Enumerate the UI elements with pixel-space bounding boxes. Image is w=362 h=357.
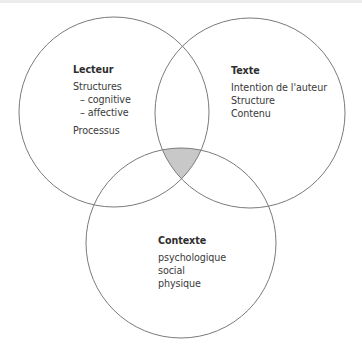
lecteur-title: Lecteur xyxy=(73,63,131,76)
lecteur-label-group: Lecteur Structures – cognitive – affecti… xyxy=(73,63,131,137)
contexte-title: Contexte xyxy=(158,234,226,247)
lecteur-subitem: – cognitive xyxy=(73,93,131,106)
contexte-label-group: Contexte psychologique social physique xyxy=(158,234,226,290)
lecteur-subitem: – affective xyxy=(73,106,131,119)
contexte-item: physique xyxy=(158,277,226,290)
texte-item: Contenu xyxy=(231,107,327,120)
texte-item: Intention de l'auteur xyxy=(231,81,327,94)
texte-title: Texte xyxy=(231,64,327,77)
contexte-item: psychologique xyxy=(158,251,226,264)
venn-diagram xyxy=(0,0,362,357)
texte-item: Structure xyxy=(231,94,327,107)
lecteur-item: Structures xyxy=(73,80,131,93)
lecteur-item: Processus xyxy=(73,124,131,137)
contexte-item: social xyxy=(158,264,226,277)
texte-label-group: Texte Intention de l'auteur Structure Co… xyxy=(231,64,327,120)
